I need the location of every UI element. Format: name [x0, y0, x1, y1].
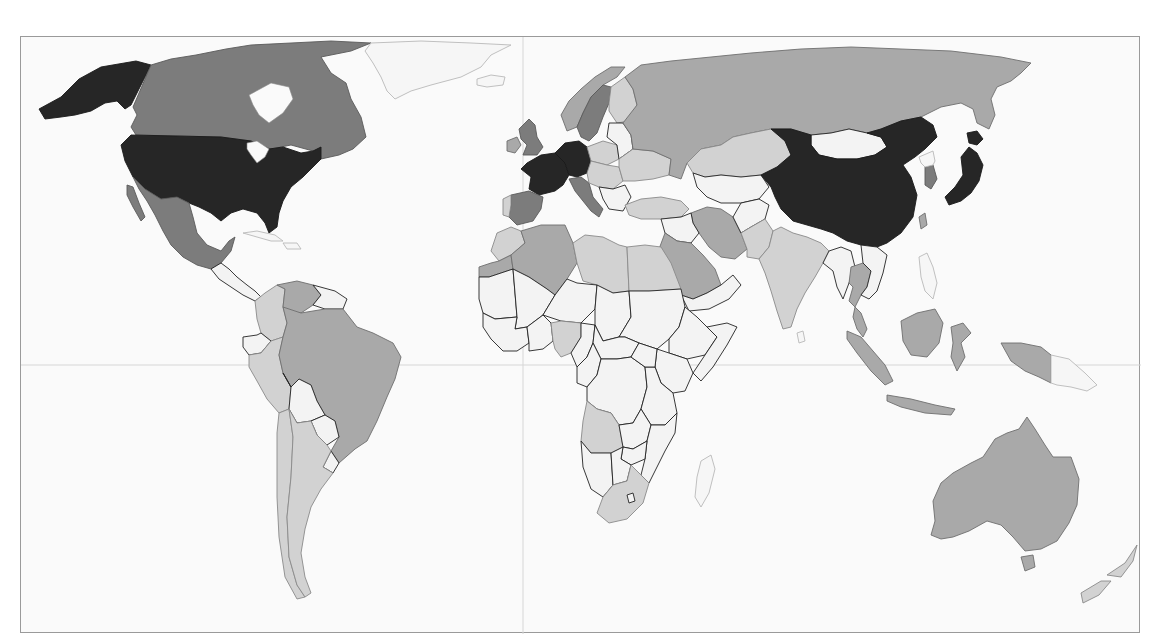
country-japan[interactable] [945, 147, 983, 205]
country-united-states[interactable] [121, 135, 321, 233]
country-turkey[interactable] [625, 197, 689, 219]
country-new-zealand[interactable] [1081, 545, 1137, 603]
country-south-korea[interactable] [925, 165, 937, 189]
country-indonesia-sulawesi[interactable] [951, 323, 971, 371]
country-borneo[interactable] [901, 309, 943, 357]
country-madagascar[interactable] [695, 455, 715, 507]
region-central-europe[interactable] [587, 161, 623, 189]
region-caribbean-cuba [243, 231, 283, 241]
country-colombia[interactable] [255, 285, 287, 341]
region-central-america[interactable] [211, 263, 261, 301]
country-spain[interactable] [509, 191, 543, 225]
world-map-frame [20, 36, 1140, 633]
country-indonesia-papua[interactable] [1001, 343, 1051, 383]
country-philippines[interactable] [919, 253, 937, 299]
country-iceland[interactable] [477, 75, 505, 87]
country-sri-lanka[interactable] [797, 331, 805, 343]
country-australia-tasmania[interactable] [1021, 555, 1035, 571]
country-papua-new-guinea[interactable] [1051, 355, 1097, 391]
country-north-korea[interactable] [919, 151, 935, 167]
country-greenland[interactable] [365, 41, 511, 99]
world-choropleth-map[interactable] [21, 37, 1141, 634]
country-indonesia-sumatra[interactable] [847, 331, 893, 385]
country-portugal[interactable] [503, 195, 511, 217]
country-lesotho[interactable] [627, 493, 635, 503]
country-japan-hokkaido [967, 131, 983, 145]
country-malaysia[interactable] [853, 307, 867, 337]
country-australia[interactable] [931, 417, 1079, 551]
country-ireland[interactable] [507, 137, 521, 153]
country-taiwan[interactable] [919, 213, 927, 229]
region-central-asia[interactable] [693, 173, 769, 203]
region-caribbean-hispaniola [283, 243, 301, 249]
country-indonesia-java[interactable] [887, 395, 955, 415]
